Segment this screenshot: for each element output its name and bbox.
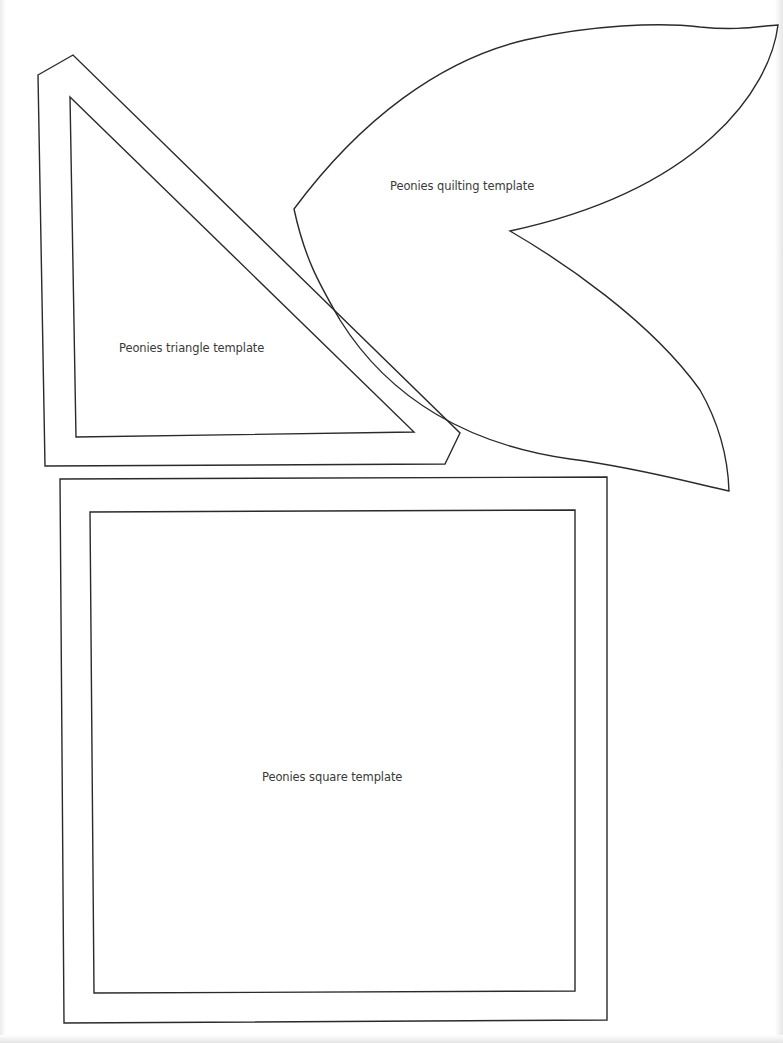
square-inner-outline	[90, 510, 575, 993]
square-outer-outline	[60, 477, 607, 1023]
triangle-outer-outline	[38, 55, 460, 466]
template-shapes	[0, 0, 783, 1043]
template-page: Peonies quilting template Peonies triang…	[0, 0, 783, 1043]
petal-outline	[294, 25, 778, 491]
quilting-template-label: Peonies quilting template	[390, 179, 534, 193]
triangle-template-label: Peonies triangle template	[119, 341, 264, 355]
triangle-inner-outline	[70, 97, 414, 437]
square-template-label: Peonies square template	[262, 770, 402, 784]
